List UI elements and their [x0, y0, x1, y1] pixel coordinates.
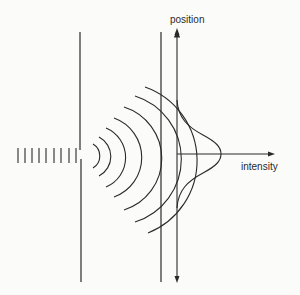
diffraction-diagram [0, 0, 300, 295]
slit-barrier [80, 32, 81, 282]
intensity-axis-label: intensity [241, 162, 278, 172]
diffracted-wavefronts [93, 87, 197, 233]
position-axis-arrow-down [175, 276, 180, 283]
position-axis-label: position [170, 15, 204, 25]
intensity-axis-arrow [268, 152, 275, 157]
incident-wavefronts [18, 148, 76, 163]
position-axis-arrow-up [175, 28, 180, 35]
